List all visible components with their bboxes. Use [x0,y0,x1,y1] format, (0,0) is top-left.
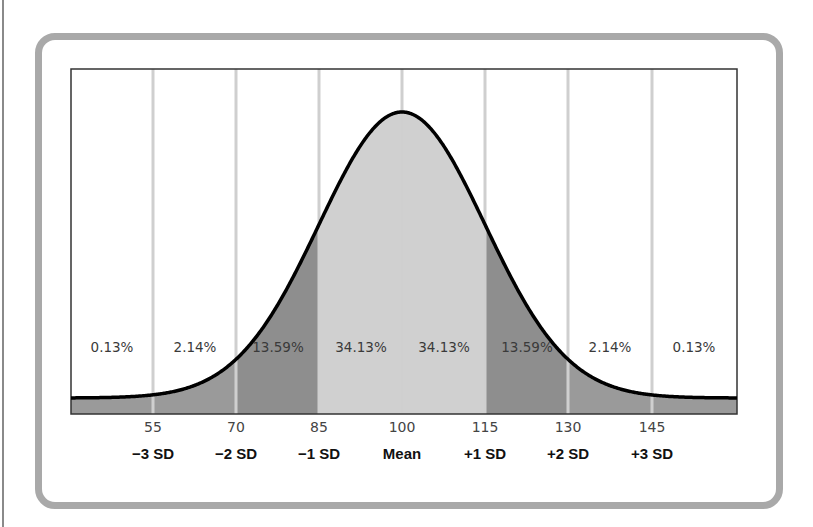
percent-label: 2.14% [589,339,632,355]
tick-label: 145 [639,419,666,435]
tick-label: 70 [227,419,245,435]
tick-label: 85 [310,419,328,435]
percent-label: 0.13% [91,339,134,355]
percent-label: 2.14% [174,339,217,355]
x-axis-ticks: 55 70 85 100 115 130 145 [144,419,665,435]
tick-label: 55 [144,419,162,435]
sd-label: −1 SD [298,445,340,462]
sd-label: +3 SD [631,445,673,462]
tick-label: 115 [472,419,499,435]
sd-label: +2 SD [547,445,589,462]
sd-label: Mean [383,445,421,462]
sd-label: −2 SD [215,445,257,462]
percent-label: 34.13% [335,339,387,355]
percent-label: 34.13% [418,339,470,355]
percent-label: 13.59% [252,339,304,355]
percent-label: 0.13% [673,339,716,355]
tick-label: 100 [389,419,416,435]
tick-label: 130 [555,419,582,435]
sd-labels: −3 SD −2 SD −1 SD Mean +1 SD +2 SD +3 SD [132,445,673,462]
sd-label: −3 SD [132,445,174,462]
bell-curve-chart: 0.13% 2.14% 13.59% 34.13% 34.13% 13.59% … [0,0,813,527]
percent-label: 13.59% [501,339,553,355]
sd-label: +1 SD [464,445,506,462]
